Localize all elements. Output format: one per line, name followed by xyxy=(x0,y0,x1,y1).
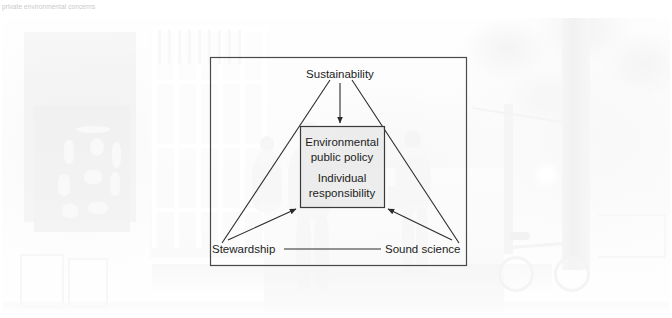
figure-caption: private environmental concerns xyxy=(2,0,402,14)
background-photograph xyxy=(2,18,670,312)
photo-washout-veil xyxy=(2,18,670,312)
